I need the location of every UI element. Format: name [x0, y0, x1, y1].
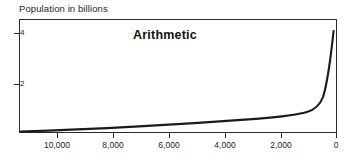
population-curve	[21, 31, 334, 132]
x-tick-label: 0	[334, 140, 339, 151]
y-tick-mark	[14, 33, 19, 34]
y-axis-title: Population in billions	[19, 3, 108, 15]
x-tick-label: 6,000	[158, 140, 179, 151]
y-tick-label: 4	[20, 28, 24, 38]
y-tick-2: 2	[14, 79, 24, 89]
x-tick-mark	[169, 133, 170, 138]
x-tick-mark	[113, 133, 114, 138]
y-tick-label: 2	[20, 79, 24, 89]
x-tick-label: 8,000	[102, 140, 123, 151]
x-tick-mark	[336, 133, 337, 138]
x-tick-mark	[57, 133, 58, 138]
x-tick-label: 2,000	[270, 140, 291, 151]
x-tick-mark	[225, 133, 226, 138]
x-tick-mark	[281, 133, 282, 138]
x-tick-label: 10,000	[44, 140, 70, 151]
y-tick-mark	[14, 84, 19, 85]
x-tick-label: 4,000	[214, 140, 235, 151]
population-curve-layer	[19, 19, 337, 133]
y-tick-4: 4	[14, 28, 24, 38]
arithmetic-population-chart: Population in billions Arithmetic 4 2 10…	[0, 0, 349, 160]
